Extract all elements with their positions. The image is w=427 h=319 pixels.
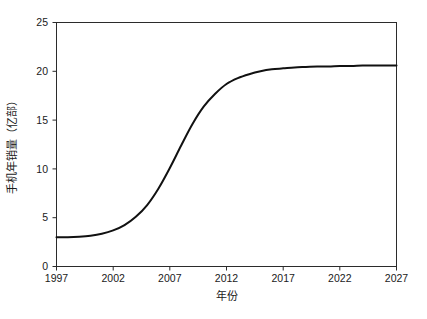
x-tick-label-2017: 2017: [272, 272, 296, 284]
y-tick-label-10: 10: [36, 163, 48, 175]
y-axis-title: 手机年销量（亿部）: [5, 95, 19, 194]
x-tick-label-2022: 2022: [328, 272, 352, 284]
x-tick-label-1997: 1997: [45, 272, 69, 284]
y-tick-label-15: 15: [36, 114, 48, 126]
y-tick-label-20: 20: [36, 65, 48, 77]
y-tick-label-5: 5: [42, 211, 48, 223]
y-tick-label-25: 25: [36, 16, 48, 28]
x-tick-label-2027: 2027: [385, 272, 409, 284]
x-tick-label-2012: 2012: [215, 272, 239, 284]
x-axis-title: 年份: [216, 289, 238, 303]
y-tick-label-0: 0: [42, 260, 48, 272]
chart-figure: 0 5 10 15 20 25 1997 2002 2007 2012 2017…: [0, 0, 427, 319]
x-tick-label-2002: 2002: [102, 272, 126, 284]
x-tick-label-2007: 2007: [158, 272, 182, 284]
